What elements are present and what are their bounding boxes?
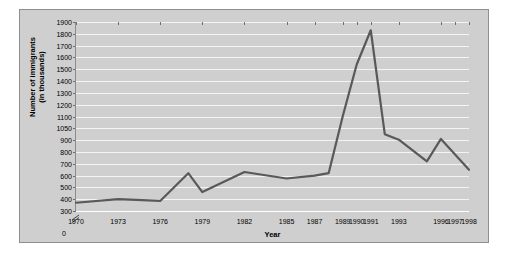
x-axis-tick-mark	[202, 22, 203, 25]
y-axis-tick-label: 1600	[56, 54, 72, 61]
x-axis-tick-label: 1979	[195, 218, 211, 225]
y-axis-tick-label: 1400	[56, 78, 72, 85]
y-axis-tick-label: 1500	[56, 66, 72, 73]
x-axis-tick-label: 1993	[391, 218, 407, 225]
x-axis-tick-label: 1976	[152, 218, 168, 225]
y-axis-title-line-2: (in thousands)	[37, 12, 46, 142]
x-axis-line	[76, 211, 469, 212]
y-axis-title: Number of immigrants (in thousands)	[28, 12, 46, 142]
y-axis-zero-label: 0	[62, 230, 66, 237]
x-axis-tick-mark	[441, 22, 442, 25]
y-axis-tick-label: 1100	[57, 113, 72, 120]
x-axis-tick-mark	[76, 22, 77, 25]
y-axis-tick-label: 1900	[56, 19, 72, 26]
y-axis-tick-label: 600	[60, 172, 72, 179]
x-axis-tick-mark	[118, 22, 119, 25]
x-axis-tick-mark	[357, 22, 358, 25]
x-axis-tick-label: 1982	[237, 218, 253, 225]
y-axis-tick-label: 1050	[56, 125, 72, 132]
y-axis-tick-label: 1700	[56, 42, 72, 49]
x-axis-tick-label: 1970	[68, 218, 84, 225]
x-axis-tick-label: 1998	[461, 218, 477, 225]
x-axis-tick-mark	[160, 22, 161, 25]
series-polyline	[76, 30, 469, 202]
x-axis-tick-mark	[455, 22, 456, 25]
x-axis-tick-mark	[343, 22, 344, 25]
x-axis-tick-label: 1991	[363, 218, 379, 225]
x-axis-tick-mark	[371, 22, 372, 25]
y-axis-tick-label: 800	[60, 148, 72, 155]
y-axis-tick-label: 500	[60, 184, 72, 191]
data-series-line	[76, 22, 469, 211]
y-axis-tick-label: 1300	[56, 89, 72, 96]
x-axis-tick-label: 1987	[307, 218, 323, 225]
y-axis-tick-label: 700	[60, 160, 72, 167]
plot-area: 1900180017001600150014001300120011001050…	[76, 22, 469, 211]
x-axis-tick-mark	[399, 22, 400, 25]
x-axis-title: Year	[76, 230, 469, 239]
x-axis-tick-mark	[244, 22, 245, 25]
x-axis-tick-mark	[287, 22, 288, 25]
x-axis-tick-label: 1973	[110, 218, 126, 225]
x-axis-tick-mark	[315, 22, 316, 25]
y-axis-tick-label: 900	[60, 137, 72, 144]
y-axis-title-line-1: Number of immigrants	[28, 12, 37, 142]
x-axis-tick-label: 1985	[279, 218, 295, 225]
y-axis-tick-label: 1200	[56, 101, 72, 108]
y-axis-tick-label: 400	[60, 196, 72, 203]
x-axis-tick-mark	[469, 22, 470, 25]
chart-figure: Number of immigrants (in thousands) 1900…	[19, 9, 489, 243]
y-axis-tick-label: 1800	[56, 30, 72, 37]
